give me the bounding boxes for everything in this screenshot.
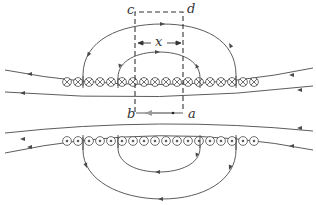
field-line-arrows (20, 72, 302, 149)
coil-into-page (206, 78, 215, 87)
label-a: a (188, 107, 196, 120)
coil-out-of-page (129, 137, 138, 146)
coil-out-of-page (217, 137, 226, 146)
coil-into-page (63, 78, 72, 87)
coil-out-of-page (162, 137, 171, 146)
coil-into-page (217, 78, 226, 87)
coil-into-page (107, 78, 116, 87)
arrow-a-to-b-icon (145, 110, 152, 116)
coil-into-page (250, 78, 259, 87)
coil-out-of-page (206, 137, 215, 146)
coil-into-page (151, 78, 160, 87)
coil-into-page (96, 78, 105, 87)
field-line-4 (5, 136, 313, 153)
upper-coil-row (63, 78, 259, 87)
lower-loop-arrows (83, 153, 232, 201)
label-x: x (155, 35, 162, 48)
segment-ab (136, 110, 183, 116)
coil-out-of-page (140, 137, 149, 146)
coil-out-of-page (96, 137, 105, 146)
field-line-2 (5, 86, 313, 97)
coil-into-page (195, 78, 204, 87)
coil-into-page (118, 78, 127, 87)
coil-into-page (239, 78, 248, 87)
coil-out-of-page (184, 137, 193, 146)
label-c: c (127, 3, 134, 16)
lower-coil-row (63, 137, 259, 146)
coil-out-of-page (85, 137, 94, 146)
lower-loops (83, 137, 236, 199)
coil-into-page (129, 78, 138, 87)
field-line-3 (5, 124, 313, 133)
coil-out-of-page (151, 137, 160, 146)
coil-out-of-page (239, 137, 248, 146)
coil-into-page (74, 78, 83, 87)
solenoid-diagram: c d b a x (0, 0, 316, 205)
coil-out-of-page (118, 137, 127, 146)
label-d: d (187, 2, 195, 15)
coil-into-page (140, 78, 149, 87)
coil-out-of-page (195, 137, 204, 146)
diagram-canvas (0, 0, 316, 205)
coil-into-page (173, 78, 182, 87)
coil-out-of-page (250, 137, 259, 146)
coil-into-page (184, 78, 193, 87)
label-b: b (127, 107, 135, 120)
coil-out-of-page (173, 137, 182, 146)
coil-out-of-page (107, 137, 116, 146)
point-dot (172, 112, 175, 115)
coil-out-of-page (63, 137, 72, 146)
coil-into-page (228, 78, 237, 87)
coil-out-of-page (228, 137, 237, 146)
lower-outer-loop (83, 137, 236, 199)
coil-out-of-page (74, 137, 83, 146)
coil-into-page (162, 78, 171, 87)
coil-into-page (85, 78, 94, 87)
